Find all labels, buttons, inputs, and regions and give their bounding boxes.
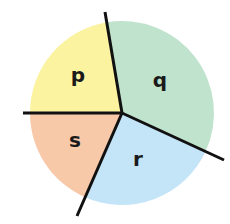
slice-label-r: r [133,147,143,171]
slice-label-q: q [153,68,167,92]
slice-label-p: p [71,63,85,87]
pie-chart: pqrs [0,0,230,224]
slice-label-s: s [69,128,81,152]
